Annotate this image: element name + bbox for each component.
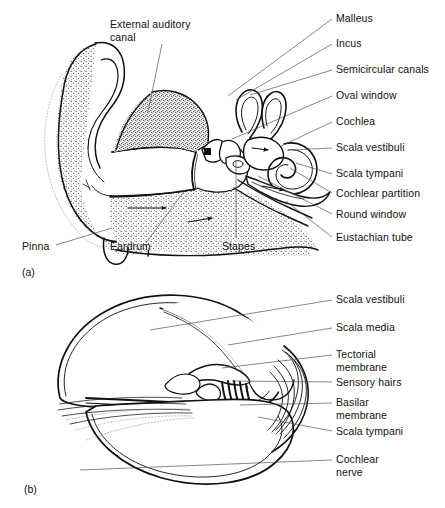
label-scala-vestibuli-b: Scala vestibuli (336, 293, 405, 306)
label-sensory-hairs: Sensory hairs (336, 376, 402, 389)
stapes-footplate-ring (233, 161, 243, 168)
label-malleus: Malleus (336, 12, 373, 25)
label-semicircular-canals: Semicircular canals (336, 63, 429, 76)
label-cochlear-nerve: Cochlear nerve (336, 453, 379, 478)
label-pinna: Pinna (22, 240, 49, 253)
label-external-auditory-canal: External auditory canal (110, 18, 191, 43)
label-scala-media: Scala media (336, 321, 395, 334)
label-round-window: Round window (336, 208, 406, 221)
label-stapes: Stapes (222, 240, 255, 253)
panel-id-cochlear-cross-section: (b) (24, 483, 37, 495)
panel-id-outer-middle-inner-ear-overview: (a) (22, 266, 35, 278)
label-eustachian-tube: Eustachian tube (336, 231, 413, 244)
label-basilar-membrane: Basilar membrane (336, 396, 387, 421)
label-scala-vestibuli: Scala vestibuli (336, 141, 405, 154)
label-scala-tympani-b: Scala tympani (336, 425, 403, 438)
label-eardrum: Eardrum (110, 240, 151, 253)
malleus-head-shade (204, 148, 211, 155)
label-scala-tympani: Scala tympani (336, 167, 403, 180)
ear-canal-lumen (112, 154, 192, 190)
label-incus: Incus (336, 37, 362, 50)
label-oval-window: Oval window (336, 89, 397, 102)
label-cochlea: Cochlea (336, 115, 375, 128)
label-tectorial-membrane: Tectorial membrane (336, 348, 387, 373)
label-cochlear-partition: Cochlear partition (336, 187, 420, 200)
